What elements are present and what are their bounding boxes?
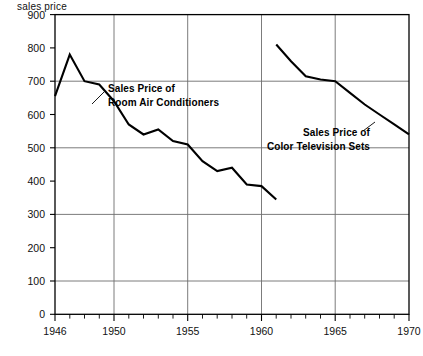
annotation-air-conditioners-line2: Room Air Conditioners	[108, 97, 220, 108]
chart-container: sales price 900	[0, 0, 423, 356]
ytick-label-500: 500	[27, 142, 45, 154]
xtick-label-1946: 1946	[43, 325, 67, 337]
plot-frame	[55, 15, 409, 315]
y-axis-ticks	[50, 15, 55, 315]
xtick-label-1965: 1965	[324, 325, 348, 337]
ytick-label-800: 800	[27, 42, 45, 54]
ytick-label-400: 400	[27, 175, 45, 187]
annotation-television-line1: Sales Price of	[303, 127, 371, 138]
gridlines-vertical	[114, 15, 335, 315]
y-axis-tick-labels: 900 800 700 600 500 400 300 200 100 0	[27, 9, 45, 321]
annotation-air-conditioners: Sales Price of Room Air Conditioners	[92, 83, 220, 108]
ytick-label-0: 0	[39, 308, 45, 320]
xtick-label-1955: 1955	[176, 325, 200, 337]
ytick-label-700: 700	[27, 75, 45, 87]
ytick-label-900: 900	[27, 9, 45, 21]
series-line-color-television-sets	[276, 45, 409, 135]
xtick-label-1950: 1950	[102, 325, 126, 337]
xtick-label-1960: 1960	[250, 325, 274, 337]
ytick-label-300: 300	[27, 208, 45, 220]
annotation-air-conditioners-line1: Sales Price of	[108, 83, 176, 94]
annotation-television: Sales Price of Color Television Sets	[267, 122, 375, 152]
annotation-leader-line-air-conditioners	[92, 92, 104, 104]
xtick-label-1970: 1970	[397, 325, 421, 337]
series-line-room-air-conditioners	[55, 55, 276, 200]
x-axis-ticks	[55, 314, 409, 321]
gridlines-horizontal	[55, 81, 409, 281]
ytick-label-600: 600	[27, 109, 45, 121]
x-axis-tick-labels: 1946 1950 1955 1960 1965 1970	[43, 325, 421, 337]
ytick-label-200: 200	[27, 242, 45, 254]
chart-plot: 900 800 700 600 500 400 300 200 100 0	[0, 0, 423, 356]
annotation-television-line2: Color Television Sets	[267, 141, 370, 152]
ytick-label-100: 100	[27, 275, 45, 287]
